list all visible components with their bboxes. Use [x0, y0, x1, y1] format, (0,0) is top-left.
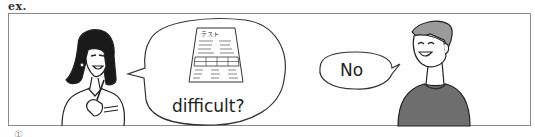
man-illustration [398, 21, 470, 126]
svg-text:テスト: テスト [201, 30, 219, 38]
test-paper-icon: テスト [189, 28, 243, 82]
next-item-marker: ① [14, 129, 23, 137]
question-text: difficult? [172, 96, 244, 116]
comic-scene: テスト [0, 0, 535, 137]
answer-text: No [340, 60, 363, 80]
woman-illustration [62, 30, 124, 126]
